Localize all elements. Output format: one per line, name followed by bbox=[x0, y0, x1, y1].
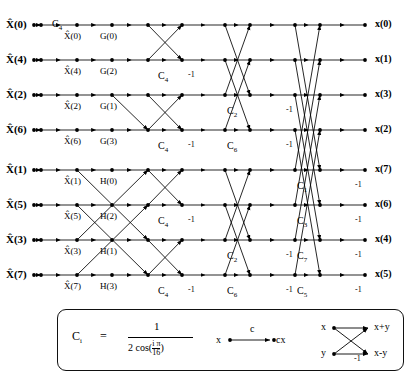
output-label-6: x(4) bbox=[375, 233, 392, 244]
coefficient-letter: C bbox=[227, 105, 234, 116]
stage1-label-5: X̂(5) bbox=[64, 211, 81, 221]
minus-one-label-5: -1 bbox=[286, 140, 293, 149]
flow-node bbox=[363, 203, 367, 207]
flow-node bbox=[75, 23, 79, 27]
coefficient-subscript: 6 bbox=[234, 146, 238, 154]
coefficient-label-10: C3 bbox=[297, 215, 307, 229]
coefficient-letter: C bbox=[52, 18, 59, 29]
flow-node bbox=[32, 128, 36, 132]
flow-node bbox=[39, 23, 43, 27]
stage2-label-1: G(2) bbox=[100, 66, 117, 76]
flow-node bbox=[39, 273, 43, 277]
stage2-label-3: G(3) bbox=[100, 136, 117, 146]
flow-edge bbox=[112, 95, 148, 130]
coefficient-label-3: C2 bbox=[227, 105, 237, 119]
stage1-label-1: X̂(4) bbox=[64, 66, 81, 76]
minus-one-label-3: -1 bbox=[188, 285, 195, 294]
minus-one-label-2: -1 bbox=[188, 215, 195, 224]
input-label-4: X̂(1) bbox=[6, 163, 27, 175]
minus-one-label-6: -1 bbox=[286, 250, 293, 259]
coefficient-subscript: 7 bbox=[304, 256, 308, 264]
coefficient-subscript: 6 bbox=[234, 291, 238, 299]
flow-graph-canvas: X̂(0) X̂(4) X̂(2) X̂(6) X̂(1) X̂(5) X̂(3… bbox=[0, 0, 413, 379]
legend-svg bbox=[58, 310, 403, 370]
minus-one-label-9: -1 bbox=[355, 215, 362, 224]
flow-node bbox=[110, 168, 114, 172]
flow-node bbox=[363, 273, 367, 277]
flow-node bbox=[32, 58, 36, 62]
coefficient-letter: C bbox=[297, 180, 304, 191]
output-label-5: x(6) bbox=[375, 198, 392, 209]
flow-node bbox=[363, 58, 367, 62]
flow-node bbox=[75, 93, 79, 97]
coefficient-letter: C bbox=[158, 285, 165, 296]
coefficient-letter: C bbox=[297, 215, 304, 226]
input-label-1: X̂(4) bbox=[6, 53, 27, 65]
flow-node bbox=[363, 168, 367, 172]
input-label-5: X̂(5) bbox=[6, 198, 27, 210]
coefficient-label-9: C1 bbox=[297, 180, 307, 194]
coefficient-label-6: C4 bbox=[158, 285, 168, 299]
coefficient-subscript: 4 bbox=[165, 291, 169, 299]
coefficient-letter: C bbox=[227, 250, 234, 261]
output-label-4: x(7) bbox=[375, 163, 392, 174]
stage1-label-3: X̂(6) bbox=[64, 136, 81, 146]
flow-node bbox=[363, 238, 367, 242]
coefficient-subscript: 3 bbox=[304, 221, 308, 229]
stage2-label-6: H(1) bbox=[100, 246, 117, 256]
flow-node bbox=[75, 128, 79, 132]
coefficient-letter: C bbox=[158, 140, 165, 151]
stage1-label-2: X̂(2) bbox=[64, 101, 81, 111]
input-label-2: X̂(2) bbox=[6, 88, 27, 100]
flow-node bbox=[110, 23, 114, 27]
coefficient-label-8: C6 bbox=[227, 285, 237, 299]
coefficient-subscript: 2 bbox=[234, 111, 238, 119]
minus-one-label-4: -1 bbox=[286, 105, 293, 114]
stage2-label-2: G(1) bbox=[100, 101, 117, 111]
minus-one-label-0: -1 bbox=[188, 70, 195, 79]
coefficient-label-1: C4 bbox=[158, 70, 168, 84]
coefficient-subscript: 1 bbox=[304, 186, 308, 194]
coefficient-subscript: 4 bbox=[59, 24, 63, 32]
flow-node bbox=[32, 23, 36, 27]
flow-node bbox=[110, 58, 114, 62]
stage1-label-0: X̂(0) bbox=[64, 31, 81, 41]
coefficient-letter: C bbox=[227, 140, 234, 151]
coefficient-letter: C bbox=[158, 215, 165, 226]
stage1-label-6: X̂(3) bbox=[64, 246, 81, 256]
flow-node bbox=[39, 238, 43, 242]
flow-node bbox=[32, 273, 36, 277]
flow-node bbox=[32, 168, 36, 172]
flow-node bbox=[39, 58, 43, 62]
flow-node bbox=[32, 203, 36, 207]
coefficient-letter: C bbox=[297, 250, 304, 261]
minus-one-label-11: -1 bbox=[355, 285, 362, 294]
flow-node bbox=[39, 203, 43, 207]
stage1-label-7: X̂(7) bbox=[64, 281, 81, 291]
stage1-label-4: X̂(1) bbox=[64, 176, 81, 186]
stage2-label-0: G(0) bbox=[100, 31, 117, 41]
coefficient-subscript: 4 bbox=[165, 146, 169, 154]
stage2-label-5: H(2) bbox=[100, 211, 117, 221]
coefficient-subscript: 4 bbox=[165, 76, 169, 84]
input-label-7: X̂(7) bbox=[6, 268, 27, 280]
input-label-6: X̂(3) bbox=[6, 233, 27, 245]
coefficient-label-11: C7 bbox=[297, 250, 307, 264]
output-label-7: x(5) bbox=[375, 268, 392, 279]
output-label-0: x(0) bbox=[375, 18, 392, 29]
coefficient-letter: C bbox=[158, 70, 165, 81]
flow-node bbox=[32, 93, 36, 97]
minus-one-label-7: -1 bbox=[286, 285, 293, 294]
output-label-3: x(2) bbox=[375, 123, 392, 134]
stage2-label-7: H(3) bbox=[100, 281, 117, 291]
minus-one-label-8: -1 bbox=[355, 180, 362, 189]
coefficient-label-7: C2 bbox=[227, 250, 237, 264]
flow-node bbox=[110, 128, 114, 132]
flow-node bbox=[363, 23, 367, 27]
flow-node bbox=[39, 93, 43, 97]
flow-node bbox=[363, 93, 367, 97]
flow-node bbox=[75, 58, 79, 62]
coefficient-letter: C bbox=[227, 285, 234, 296]
input-label-0: X̂(0) bbox=[6, 18, 27, 30]
legend-box: Ci = 1 2 cos( i π 16 ) x c cx x y x+y x-… bbox=[57, 309, 404, 371]
